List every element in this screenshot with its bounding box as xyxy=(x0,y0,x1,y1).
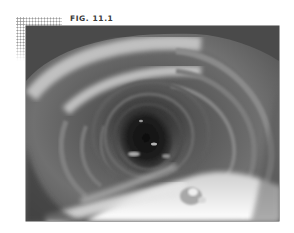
figure-caption: FIG. 11.1 xyxy=(70,14,113,24)
endoscopic-image xyxy=(26,26,279,221)
dotted-corner-frame-left xyxy=(16,17,25,61)
figure: FIG. 11.1 xyxy=(0,0,294,233)
endoscopic-photo xyxy=(26,26,279,221)
